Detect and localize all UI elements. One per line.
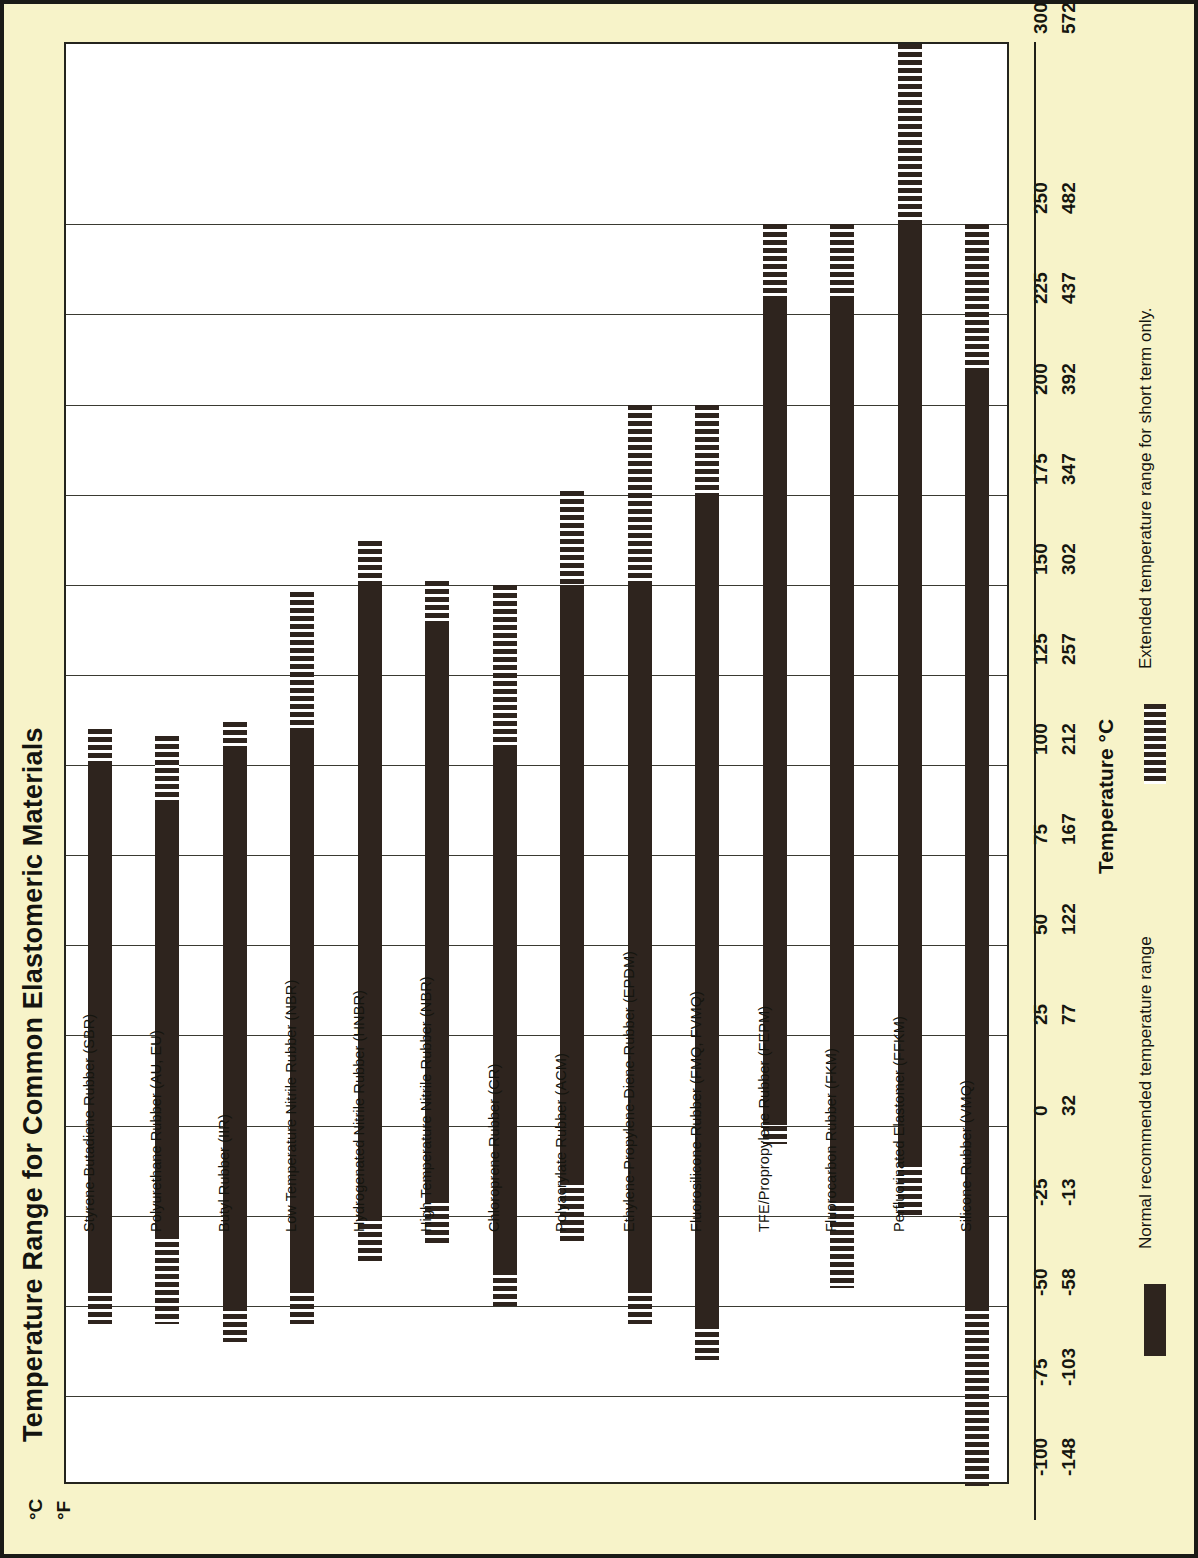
- tick-label-fahrenheit: 392: [1058, 363, 1080, 395]
- extended-range-upper: [628, 405, 652, 585]
- tick-label-fahrenheit: 347: [1058, 453, 1080, 485]
- tick-label-fahrenheit: -58: [1058, 1268, 1080, 1295]
- axis-tick: 250482: [1009, 214, 1067, 230]
- bar-range[interactable]: [223, 44, 247, 1482]
- axis-tick: 200392: [1009, 395, 1067, 411]
- bar-label: Fluorosilicone-Rubber (FMQ, FVMQ): [688, 991, 704, 1232]
- gridline: [66, 945, 1007, 946]
- axis-tick: 125257: [1009, 665, 1067, 681]
- gridline: [66, 1035, 1007, 1036]
- bar-label: Ethylene-Propylene-Diene-Rubber (EPDM): [621, 951, 637, 1232]
- extended-range-upper: [223, 722, 247, 747]
- bar-label: High Temperature Nitrile Rubber (NBR): [418, 976, 434, 1232]
- tick-label-fahrenheit: 212: [1058, 723, 1080, 755]
- extended-range-upper: [965, 224, 989, 368]
- gridline: [66, 1306, 1007, 1307]
- bar-label: Polyurethane Rubber (AU, EU): [148, 1030, 164, 1232]
- gridline: [66, 1126, 1007, 1127]
- axis-tick: 032: [1009, 1116, 1067, 1132]
- tick-label-fahrenheit: 302: [1058, 543, 1080, 575]
- bar-range[interactable]: [155, 44, 179, 1482]
- axis-tick: 2577: [1009, 1025, 1067, 1041]
- axis-tick: -100-148: [1009, 1476, 1067, 1492]
- extended-range-upper: [155, 736, 179, 801]
- gridline: [66, 1216, 1007, 1217]
- bar-range[interactable]: [560, 44, 584, 1482]
- extended-range-upper: [425, 581, 449, 621]
- tick-label-fahrenheit: 572: [1058, 2, 1080, 34]
- page-title: Temperature Range for Common Elastomeric…: [4, 4, 62, 1558]
- extended-range-upper: [898, 44, 922, 224]
- gridline: [66, 224, 1007, 225]
- tick-label-fahrenheit: -148: [1058, 1438, 1080, 1476]
- gridline: [66, 405, 1007, 406]
- tick-label-celsius: 300: [1030, 2, 1052, 34]
- tick-label-fahrenheit: 437: [1058, 273, 1080, 305]
- bar-range[interactable]: [425, 44, 449, 1482]
- extended-range-upper: [560, 491, 584, 585]
- bar-range[interactable]: [628, 44, 652, 1482]
- bar-label: Polyacrylate Rubber (ACM): [553, 1053, 569, 1232]
- gridline: [66, 855, 1007, 856]
- bar-label: Chloroprene Rubber (CR): [486, 1063, 502, 1231]
- axis-tick: -50-58: [1009, 1296, 1067, 1312]
- legend-label-normal: Normal recommended temperature range: [1136, 936, 1156, 1249]
- bar-label: Silicone-Rubber (VMQ): [958, 1080, 974, 1232]
- tick-label-fahrenheit: 77: [1058, 1004, 1080, 1025]
- chart-page: Temperature Range for Common Elastomeric…: [0, 0, 1198, 1558]
- tick-label-fahrenheit: 32: [1058, 1094, 1080, 1115]
- bar-range[interactable]: [965, 44, 989, 1482]
- gridline: [66, 1396, 1007, 1397]
- bar-range[interactable]: [493, 44, 517, 1482]
- y-axis-ticks: 3005722504822254372003921753471503021252…: [1009, 42, 1067, 1484]
- axis-tick: 300572: [1009, 34, 1067, 50]
- tick-label-fahrenheit: -103: [1058, 1348, 1080, 1386]
- unit-fahrenheit-label: °F: [53, 1501, 75, 1520]
- axis-tick: 175347: [1009, 485, 1067, 501]
- extended-range-lower: [290, 1288, 314, 1324]
- bar-range[interactable]: [358, 44, 382, 1482]
- gridline: [66, 675, 1007, 676]
- legend: Normal recommended temperature range Ext…: [1124, 4, 1194, 1558]
- tick-label-fahrenheit: 482: [1058, 183, 1080, 215]
- axis-tick: -25-13: [1009, 1206, 1067, 1222]
- bar-label: Styrene-Butadiene Rubber (SBR): [81, 1013, 97, 1231]
- hatched-bar-icon: [1144, 704, 1166, 784]
- axis-tick: 100212: [1009, 755, 1067, 771]
- bar-label: Fluorocarbon Rubber (FKM): [823, 1048, 839, 1232]
- bar-range[interactable]: [830, 44, 854, 1482]
- extended-range-lower: [628, 1288, 652, 1324]
- bar-range[interactable]: [88, 44, 112, 1482]
- bar-range[interactable]: [763, 44, 787, 1482]
- normal-range: [763, 296, 787, 1125]
- tick-label-fahrenheit: 122: [1058, 904, 1080, 936]
- axis-divider: [1034, 42, 1036, 1520]
- extended-range-lower: [155, 1234, 179, 1324]
- bar-range[interactable]: [290, 44, 314, 1482]
- axis-title: Temperature °C: [1094, 719, 1118, 874]
- bar-range[interactable]: [898, 44, 922, 1482]
- extended-range-lower: [223, 1306, 247, 1342]
- axis-tick: 50122: [1009, 935, 1067, 951]
- tick-label-fahrenheit: 257: [1058, 633, 1080, 665]
- axis-tick: -75-103: [1009, 1386, 1067, 1402]
- axis-tick: 75167: [1009, 845, 1067, 861]
- bar-label: Hydrogenated Nitrile Rubber (HNBR): [351, 990, 367, 1232]
- solid-bar-icon: [1144, 1284, 1166, 1356]
- tick-label-fahrenheit: -13: [1058, 1178, 1080, 1205]
- bar-label: Low Temperature Nitrile Rubber (NBR): [283, 979, 299, 1231]
- plot-area: [64, 42, 1009, 1484]
- extended-range-lower: [695, 1324, 719, 1360]
- extended-range-upper: [493, 585, 517, 747]
- legend-label-extended: Extended temperature range for short ter…: [1136, 307, 1156, 669]
- gridline: [66, 765, 1007, 766]
- bar-label: Butyl Rubber (IIR): [216, 1114, 232, 1232]
- axis-tick: 225437: [1009, 304, 1067, 320]
- tick-label-fahrenheit: 167: [1058, 813, 1080, 845]
- extended-range-upper: [763, 224, 787, 296]
- extended-range-upper: [830, 224, 854, 296]
- extended-range-upper: [290, 592, 314, 729]
- extended-range-upper: [88, 729, 112, 765]
- gridline: [66, 495, 1007, 496]
- bar-range[interactable]: [695, 44, 719, 1482]
